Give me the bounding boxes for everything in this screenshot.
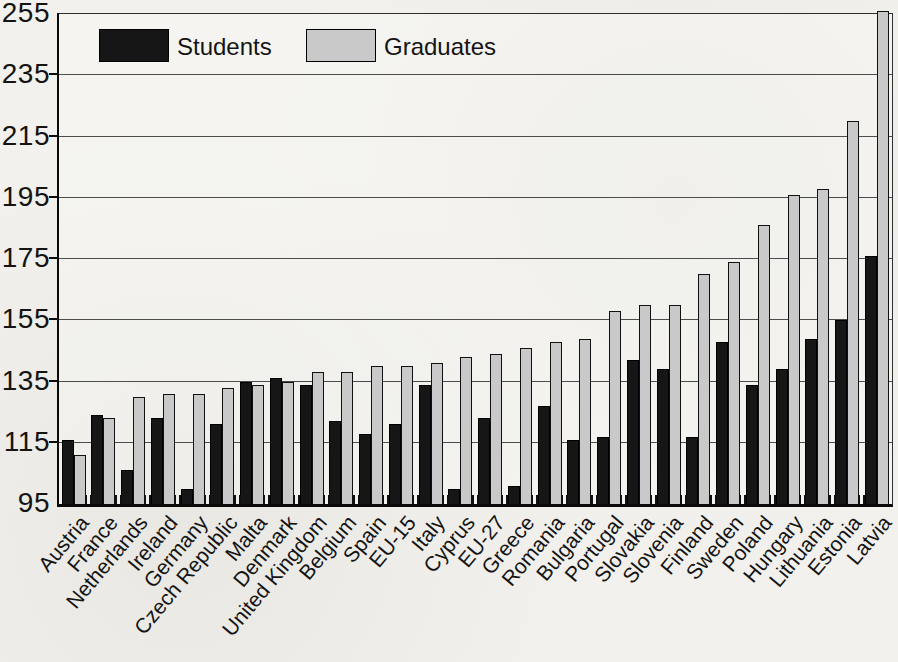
bar-graduates-slovenia [669,305,681,504]
bar-students-poland [746,385,758,504]
bar-graduates-sweden [728,262,740,504]
bar-graduates-belgium [341,372,353,504]
bar-students-slovakia [627,360,639,504]
bar-graduates-ireland [163,394,175,504]
bar-students-denmark [270,378,282,504]
gridline-215 [59,136,892,137]
bar-students-eu-15 [389,424,401,504]
bar-graduates-finland [698,274,710,504]
bar-students-malta [240,382,252,505]
bar-students-netherlands [121,470,133,504]
bar-students-france [91,415,103,504]
y-axis-tick-label-155: 155 [0,304,50,334]
bar-graduates-denmark [282,382,294,505]
bar-graduates-czech-republic [222,388,234,504]
bar-students-lithuania [805,339,817,504]
bar-students-bulgaria [567,440,579,504]
bar-graduates-eu-15 [401,366,413,504]
bar-students-finland [686,437,698,504]
bar-students-spain [359,434,371,504]
bar-students-latvia [865,256,877,504]
y-axis-tick-label-115: 115 [0,427,50,457]
bar-students-sweden [716,342,728,504]
bar-students-slovenia [657,369,669,504]
bar-graduates-france [103,418,115,504]
legend-label-students: Students [177,33,272,61]
x-axis-labels: AustriaFranceNetherlandsIrelandGermanyCz… [57,503,890,662]
bar-students-belgium [329,421,341,504]
bar-students-romania [538,406,550,504]
y-axis-tick-mark-155 [49,318,57,320]
legend-swatch-graduates [306,29,376,62]
bar-graduates-united-kingdom [312,372,324,504]
legend-swatch-students [99,29,169,62]
bar-graduates-hungary [788,195,800,504]
bar-graduates-lithuania [817,189,829,504]
y-axis-tick-label-215: 215 [0,121,50,151]
plot-area: Students Graduates [57,13,893,507]
bar-graduates-cyprus [460,357,472,504]
bar-graduates-slovakia [639,305,651,504]
y-axis-tick-label-175: 175 [0,243,50,273]
bar-graduates-eu-27 [490,354,502,504]
bar-graduates-austria [74,455,86,504]
bar-graduates-malta [252,385,264,504]
bar-graduates-latvia [877,11,889,504]
bar-students-greece [508,486,520,504]
bar-students-germany [181,489,193,504]
bar-graduates-portugal [609,311,621,504]
y-axis-tick-label-135: 135 [0,366,50,396]
bar-graduates-netherlands [133,397,145,504]
gridline-195 [59,197,892,198]
bar-students-portugal [597,437,609,504]
bar-students-czech-republic [210,424,222,504]
y-axis-tick-mark-115 [49,441,57,443]
bar-graduates-estonia [847,121,859,504]
bar-graduates-bulgaria [579,339,591,504]
gridline-235 [59,74,892,75]
bar-graduates-germany [193,394,205,504]
bar-graduates-greece [520,348,532,504]
y-axis-tick-mark-195 [49,196,57,198]
bar-graduates-romania [550,342,562,504]
y-axis-tick-mark-215 [49,135,57,137]
bar-graduates-poland [758,225,770,504]
y-axis-tick-label-255: 255 [0,0,50,28]
y-axis-tick-mark-175 [49,257,57,259]
bar-students-united-kingdom [300,385,312,504]
y-axis-tick-mark-135 [49,380,57,382]
bar-students-italy [419,385,431,504]
figure: 95115135155175195215235255 Students Grad… [0,0,898,662]
y-axis-tick-label-195: 195 [0,182,50,212]
legend-label-graduates: Graduates [384,33,496,61]
y-axis-tick-label-95: 95 [0,488,50,518]
bar-students-ireland [151,418,163,504]
bar-students-cyprus [448,489,460,504]
bar-graduates-italy [431,363,443,504]
bar-students-hungary [776,369,788,504]
bar-graduates-spain [371,366,383,504]
y-axis-tick-mark-235 [49,73,57,75]
y-axis-tick-label-235: 235 [0,59,50,89]
bar-students-eu-27 [478,418,490,504]
bar-students-austria [62,440,74,504]
bar-students-estonia [835,320,847,504]
